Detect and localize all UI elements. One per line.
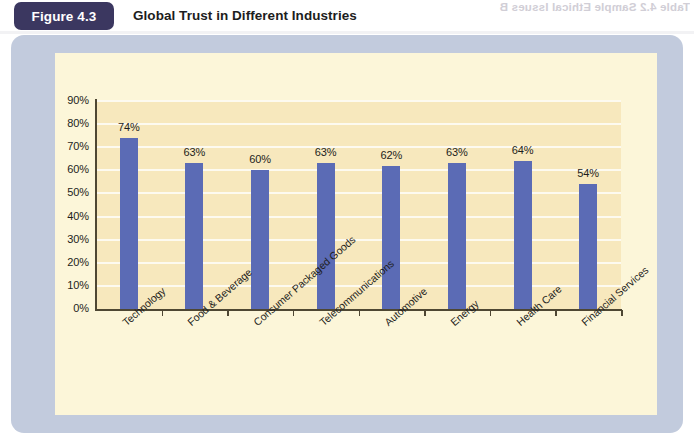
figure-title: Global Trust in Different Industries: [133, 8, 357, 23]
bar: [251, 170, 269, 309]
x-axis-tick: [424, 310, 426, 316]
bar-value-label: 64%: [493, 144, 553, 156]
bar-value-label: 74%: [99, 121, 159, 133]
y-axis-tick-label: 20%: [53, 256, 89, 268]
bar-value-label: 63%: [296, 146, 356, 158]
y-axis-tick-label: 90%: [53, 94, 89, 106]
gridline: [96, 192, 621, 194]
figure-header: Figure 4.3 Global Trust in Different Ind…: [0, 0, 694, 33]
x-axis-tick: [621, 310, 623, 316]
bar-value-label: 63%: [164, 146, 224, 158]
gridline: [96, 123, 621, 125]
x-axis-tick: [359, 310, 361, 316]
y-axis-tick-label: 10%: [53, 279, 89, 291]
x-axis-tick: [293, 310, 295, 316]
bar-value-label: 60%: [230, 153, 290, 165]
chart-panel: 0%10%20%30%40%50%60%70%80%90% 74%63%60%6…: [11, 35, 683, 433]
plot-area-background: [96, 101, 621, 309]
y-axis-tick-label: 0%: [53, 302, 89, 314]
bar: [317, 163, 335, 309]
figure-number-badge: Figure 4.3: [14, 2, 114, 30]
bar-value-label: 62%: [361, 149, 421, 161]
x-axis-tick: [490, 310, 492, 316]
header-divider: [0, 31, 694, 34]
bar: [448, 163, 466, 309]
y-axis-line: [95, 99, 97, 311]
bar: [120, 138, 138, 309]
y-axis-tick-label: 40%: [53, 210, 89, 222]
gridline: [96, 100, 621, 102]
bar: [514, 161, 532, 309]
x-axis-tick: [162, 310, 164, 316]
bar: [185, 163, 203, 309]
gridline: [96, 262, 621, 264]
x-axis-tick: [555, 310, 557, 316]
x-axis-tick: [227, 310, 229, 316]
gridline: [96, 216, 621, 218]
y-axis-tick-label: 70%: [53, 140, 89, 152]
y-axis-tick-label: 60%: [53, 163, 89, 175]
y-axis-tick-label: 80%: [53, 117, 89, 129]
chart-canvas: 0%10%20%30%40%50%60%70%80%90% 74%63%60%6…: [55, 53, 657, 415]
y-axis-tick-label: 30%: [53, 233, 89, 245]
gridline: [96, 239, 621, 241]
bar-value-label: 63%: [427, 146, 487, 158]
y-axis-tick-label: 50%: [53, 186, 89, 198]
gridline: [96, 169, 621, 171]
bar-value-label: 54%: [558, 167, 618, 179]
bar: [579, 184, 597, 309]
bar: [382, 166, 400, 309]
